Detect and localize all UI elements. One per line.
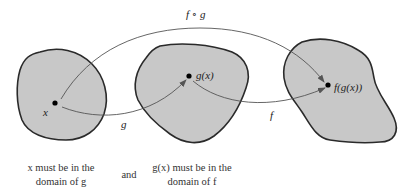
label-x: x (43, 106, 48, 118)
point-f-of-g-of-x (325, 82, 330, 87)
caption-right-line2: domain of f (146, 175, 238, 189)
caption-left-line1: x must be in the (20, 161, 102, 175)
label-f-compose-g: f ∘ g (186, 8, 205, 20)
point-g-of-x (186, 73, 191, 78)
label-g-of-x: g(x) (196, 69, 214, 81)
middle-region (135, 44, 248, 143)
caption-right-line1: g(x) must be in the (146, 161, 238, 175)
label-f-of-g-of-x: f(g(x)) (334, 81, 362, 93)
caption-left-line2: domain of g (20, 175, 102, 189)
point-x (52, 100, 57, 105)
domain-g-region (17, 49, 106, 140)
label-f: f (270, 109, 273, 121)
caption-and: and (114, 168, 144, 182)
caption-right: g(x) must be in the domain of f (146, 161, 238, 189)
label-g: g (121, 118, 127, 130)
caption-left: x must be in the domain of g (20, 161, 102, 189)
